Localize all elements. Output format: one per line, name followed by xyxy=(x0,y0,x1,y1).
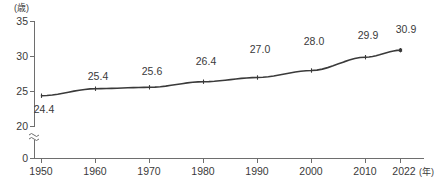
data-point-marker-end xyxy=(399,49,402,52)
data-label-2000: 28.0 xyxy=(304,35,325,47)
y-axis-unit-label: (歳) xyxy=(14,2,29,13)
y-tick-label-35: 35 xyxy=(16,15,28,27)
x-tick-label-1980: 1980 xyxy=(191,165,215,177)
x-tick-label-2000: 2000 xyxy=(299,165,323,177)
data-label-2022: 30.9 xyxy=(396,23,417,35)
x-tick-label-1950: 1950 xyxy=(29,165,53,177)
chart-canvas: (歳) 35 30 25 20 0 1950 xyxy=(0,0,440,179)
x-tick-label-1990: 1990 xyxy=(245,165,269,177)
x-tick-label-2022: 2022 xyxy=(392,165,416,177)
line-chart: (歳) 35 30 25 20 0 1950 xyxy=(0,0,440,179)
x-axis-unit-label: (年) xyxy=(419,166,434,177)
x-tick-label-1970: 1970 xyxy=(137,165,161,177)
y-tick-label-30: 30 xyxy=(16,50,28,62)
data-label-2010: 29.9 xyxy=(358,29,379,41)
y-tick-label-0: 0 xyxy=(22,152,28,164)
y-tick-label-20: 20 xyxy=(16,120,28,132)
data-label-1980: 26.4 xyxy=(196,55,217,67)
y-tick-label-25: 25 xyxy=(16,85,28,97)
data-label-1970: 25.6 xyxy=(142,65,163,77)
x-tick-label-1960: 1960 xyxy=(83,165,107,177)
y-axis-break-icon xyxy=(29,134,39,141)
x-tick-label-2010: 2010 xyxy=(353,165,377,177)
data-label-1990: 27.0 xyxy=(250,43,271,55)
data-label-1950: 24.4 xyxy=(34,103,55,115)
data-label-1960: 25.4 xyxy=(88,70,109,82)
